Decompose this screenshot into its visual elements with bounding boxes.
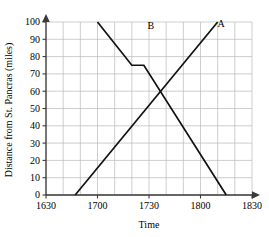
y-axis-tick-labels: 0102030405060708090100	[25, 16, 40, 200]
y-tick-label: 30	[30, 138, 40, 149]
x-tick-label: 1730	[139, 200, 159, 211]
y-tick-label: 0	[35, 189, 40, 200]
y-axis-title: Distance from St. Pancras (miles)	[3, 43, 15, 178]
x-tick-label: 1800	[191, 200, 211, 211]
chart-canvas: 0102030405060708090100 16301700173018001…	[0, 0, 269, 237]
y-tick-label: 70	[30, 68, 40, 79]
y-tick-label: 40	[30, 120, 40, 131]
y-tick-label: 90	[30, 34, 40, 45]
x-tick-label: 1700	[88, 200, 108, 211]
series-label-b: B	[147, 20, 154, 31]
y-tick-label: 50	[30, 103, 40, 114]
y-tick-label: 10	[30, 172, 40, 183]
x-axis-arrow-icon	[252, 191, 260, 199]
x-axis-title: Time	[139, 219, 160, 230]
x-axis-tick-labels: 16301700173018001830	[36, 200, 262, 211]
axes	[42, 14, 260, 199]
x-tick-label: 1830	[242, 200, 262, 211]
distance-time-graph: 0102030405060708090100 16301700173018001…	[0, 0, 269, 237]
series-label-a: A	[217, 18, 225, 29]
y-tick-label: 20	[30, 155, 40, 166]
y-axis-arrow-icon	[42, 14, 50, 22]
y-tick-label: 80	[30, 51, 40, 62]
y-tick-label: 100	[25, 16, 40, 27]
x-tick-label: 1630	[36, 200, 56, 211]
y-tick-label: 60	[30, 86, 40, 97]
series-endpoint-labels: AB	[147, 18, 225, 31]
